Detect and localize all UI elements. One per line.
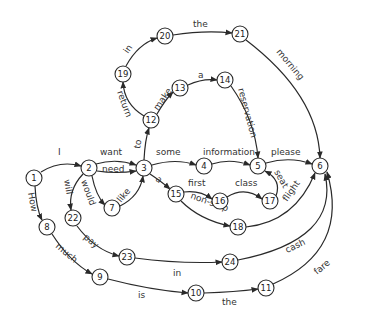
- edge-13-14: [188, 80, 217, 85]
- node-2: 2: [81, 160, 97, 176]
- svg-text:8: 8: [44, 222, 49, 232]
- node-21: 21: [232, 26, 248, 42]
- node-22: 22: [65, 210, 81, 226]
- svg-text:10: 10: [191, 288, 202, 298]
- node-8: 8: [39, 219, 55, 235]
- svg-text:22: 22: [68, 213, 79, 223]
- edge-23-24: [135, 258, 222, 263]
- svg-text:18: 18: [233, 222, 244, 232]
- svg-text:14: 14: [220, 75, 231, 85]
- edge-3-4: [152, 162, 196, 166]
- label-please: please: [271, 147, 301, 157]
- svg-text:17: 17: [265, 196, 276, 206]
- svg-text:21: 21: [235, 29, 246, 39]
- node-18: 18: [230, 219, 246, 235]
- node-10: 10: [188, 285, 204, 301]
- edge-3-12: [144, 128, 149, 160]
- node-4: 4: [196, 158, 212, 174]
- svg-text:23: 23: [122, 252, 133, 262]
- label-would: would: [79, 178, 98, 207]
- svg-text:3: 3: [141, 163, 146, 173]
- svg-text:19: 19: [118, 69, 129, 79]
- node-5: 5: [250, 158, 266, 174]
- node-17: 17: [262, 193, 278, 209]
- node-11: 11: [258, 280, 274, 296]
- edge-labels: I want need would like will some informa…: [26, 19, 332, 307]
- edge-16-17: [227, 192, 262, 199]
- label-How: How: [26, 192, 39, 213]
- label-fare: fare: [312, 257, 332, 276]
- svg-text:24: 24: [225, 257, 236, 267]
- label-reservation: reservation: [236, 87, 259, 139]
- svg-text:20: 20: [160, 31, 171, 41]
- label-the-top: the: [193, 19, 208, 29]
- label-I: I: [58, 147, 61, 157]
- label-information: information: [203, 147, 255, 157]
- label-like: like: [115, 186, 133, 205]
- node-19: 19: [115, 66, 131, 82]
- edge-10-11: [204, 289, 258, 293]
- label-make: make: [151, 86, 174, 112]
- label-pay: pay: [82, 232, 102, 251]
- svg-text:15: 15: [171, 189, 182, 199]
- svg-text:13: 13: [175, 83, 186, 93]
- label-cash: cash: [284, 237, 307, 255]
- node-16: 16: [212, 193, 228, 209]
- node-20: 20: [157, 28, 173, 44]
- edge-1-2: [41, 164, 81, 172]
- label-in-bottom: in: [173, 268, 181, 278]
- edge-4-5: [212, 161, 250, 165]
- label-first: first: [188, 178, 206, 188]
- node-14: 14: [217, 72, 233, 88]
- svg-text:16: 16: [215, 196, 226, 206]
- label-to: to: [132, 138, 144, 149]
- label-a-top: a: [198, 70, 204, 80]
- svg-text:1: 1: [31, 173, 36, 183]
- node-6: 6: [312, 158, 328, 174]
- label-will: will: [62, 179, 74, 195]
- svg-text:2: 2: [86, 163, 91, 173]
- svg-text:11: 11: [261, 283, 272, 293]
- node-12: 12: [143, 112, 159, 128]
- label-is: is: [138, 290, 146, 300]
- svg-text:12: 12: [146, 115, 157, 125]
- svg-text:9: 9: [97, 272, 102, 282]
- edge-5-6: [266, 160, 312, 164]
- label-morning: morning: [274, 47, 306, 82]
- edge-9-10: [108, 279, 188, 293]
- edge-20-21: [173, 32, 232, 35]
- node-7: 7: [104, 200, 120, 216]
- svg-text:5: 5: [255, 161, 260, 171]
- node-3: 3: [136, 160, 152, 176]
- svg-text:4: 4: [201, 161, 206, 171]
- label-class: class: [235, 178, 258, 188]
- node-23: 23: [119, 249, 135, 265]
- label-much: much: [54, 241, 80, 265]
- node-9: 9: [92, 269, 108, 285]
- label-the-bottom: the: [222, 297, 237, 307]
- label-need: need: [102, 164, 125, 174]
- label-want: want: [100, 147, 123, 157]
- svg-text:6: 6: [317, 161, 322, 171]
- label-some: some: [156, 147, 181, 157]
- label-in-top: in: [121, 43, 134, 55]
- node-24: 24: [222, 254, 238, 270]
- word-network-diagram: I want need would like will some informa…: [0, 0, 369, 320]
- node-1: 1: [26, 170, 42, 186]
- node-13: 13: [172, 80, 188, 96]
- svg-text:7: 7: [109, 203, 114, 213]
- node-15: 15: [168, 186, 184, 202]
